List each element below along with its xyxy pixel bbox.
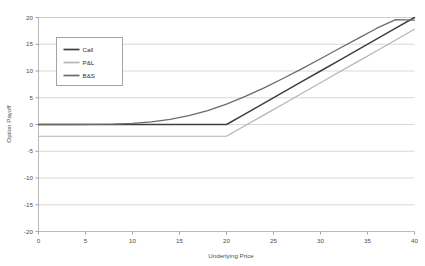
legend-label-call: Call	[83, 46, 94, 53]
x-tick-label: 10	[129, 237, 136, 244]
x-axis-ticks: 0510152025303540	[37, 232, 419, 244]
y-tick-label: -5	[27, 147, 33, 154]
x-tick-label: 0	[37, 237, 41, 244]
y-tick-label: 0	[30, 121, 34, 128]
x-tick-label: 35	[364, 237, 371, 244]
x-axis-title: Underlying Price	[208, 252, 254, 259]
x-tick-label: 30	[317, 237, 324, 244]
y-tick-label: 10	[26, 67, 33, 74]
y-tick-label: -15	[24, 201, 34, 208]
chart-legend: CallP&LB&S	[57, 38, 123, 86]
x-tick-label: 40	[411, 237, 418, 244]
legend-label-pl: P&L	[83, 59, 95, 66]
y-tick-label: 20	[26, 14, 33, 21]
y-tick-label: -20	[24, 228, 34, 235]
x-tick-label: 25	[270, 237, 277, 244]
x-tick-label: 20	[223, 237, 230, 244]
option-payoff-chart: 20151050-5-10-15-20 0510152025303540 Cal…	[0, 0, 425, 266]
chart-canvas: 20151050-5-10-15-20 0510152025303540 Cal…	[0, 0, 425, 266]
y-tick-label: -10	[24, 174, 34, 181]
legend-label-bs: B&S	[83, 72, 95, 79]
x-tick-label: 5	[84, 237, 88, 244]
x-tick-label: 15	[176, 237, 183, 244]
y-tick-label: 5	[30, 94, 34, 101]
y-tick-label: 15	[26, 40, 33, 47]
y-axis-title: Option Payoff	[5, 105, 12, 143]
y-axis-ticks: 20151050-5-10-15-20	[24, 14, 38, 235]
